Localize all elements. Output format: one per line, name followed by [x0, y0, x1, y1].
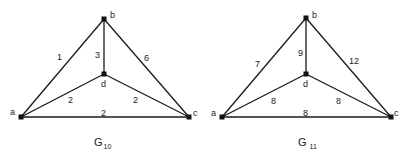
edge-weight-b-d: 3: [95, 50, 100, 60]
edge-d-c: [306, 74, 391, 117]
edge-weight-a-b: 7: [255, 59, 260, 69]
edge-a-b: [21, 19, 104, 117]
edge-b-c: [306, 18, 391, 117]
vertex-d: [304, 72, 309, 77]
edge-weight-b-c: 12: [349, 56, 359, 66]
graph-g10: a b c d 1 3 6 2 2 2 G10: [10, 10, 198, 150]
edge-weight-a-b: 1: [57, 52, 62, 62]
vertex-label-d: d: [303, 79, 308, 89]
vertex-label-a: a: [211, 108, 216, 118]
vertex-label-a: a: [10, 107, 15, 117]
vertex-a: [220, 115, 225, 120]
vertex-c: [389, 115, 394, 120]
vertex-a: [19, 115, 24, 120]
diagram-canvas: a b c d 1 3 6 2 2 2 G10 a b c d 7 9 12 8…: [0, 0, 412, 155]
vertex-label-c: c: [394, 108, 399, 118]
edge-weight-a-c: 2: [101, 108, 106, 118]
vertex-label-c: c: [193, 108, 198, 118]
edge-d-c: [104, 74, 189, 117]
vertex-label-d: d: [101, 79, 106, 89]
edge-weight-d-c: 8: [336, 96, 341, 106]
graph-g11: a b c d 7 9 12 8 8 8 G11: [211, 10, 399, 150]
vertex-b: [304, 16, 309, 21]
graph-title-g10: G10: [94, 136, 111, 150]
graph-title-g11: G11: [298, 136, 317, 150]
edge-weight-a-d: 2: [68, 95, 73, 105]
edge-a-d: [21, 74, 104, 117]
vertex-d: [102, 72, 107, 77]
vertex-label-b: b: [312, 10, 317, 20]
edge-weight-b-d: 9: [298, 48, 303, 58]
vertex-b: [102, 17, 107, 22]
edge-weight-b-c: 6: [144, 53, 149, 63]
edge-weight-d-c: 2: [133, 95, 138, 105]
edge-weight-a-d: 8: [271, 96, 276, 106]
edge-weight-a-c: 8: [303, 108, 308, 118]
vertex-c: [187, 115, 192, 120]
edge-a-d: [222, 74, 306, 117]
edge-b-c: [104, 19, 189, 117]
edge-a-b: [222, 18, 306, 117]
vertex-label-b: b: [110, 10, 115, 20]
